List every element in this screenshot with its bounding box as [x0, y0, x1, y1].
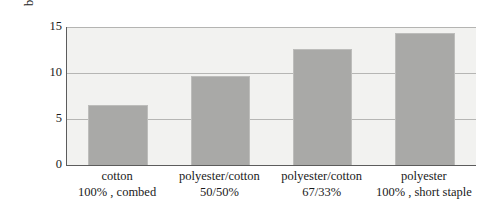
x-axis-category-labels: cotton100% , combedpolyester/cotton50/50…: [66, 168, 476, 214]
x-axis-label-line: 50/50%: [168, 184, 270, 200]
x-axis-label: cotton100% , combed: [66, 168, 168, 200]
x-axis-line: [66, 165, 476, 166]
y-tick-label-15: 15: [36, 20, 62, 33]
y-axis-tick-labels: 151050: [36, 0, 62, 218]
x-axis-label-line: 100% , combed: [66, 184, 168, 200]
bar: [395, 33, 454, 165]
bars-layer: [67, 27, 476, 165]
bar: [88, 105, 147, 165]
x-axis-label-line: polyester/cotton: [168, 168, 270, 184]
x-axis-label-line: polyester: [373, 168, 475, 184]
x-axis-label: polyester/cotton67/33%: [271, 168, 373, 200]
x-axis-label: polyester100% , short staple: [373, 168, 475, 200]
y-tick-label-5: 5: [36, 112, 62, 125]
bar-chart-figure: breaking strain/% 151050 cotton100% , co…: [0, 0, 495, 218]
plot-area: [66, 27, 476, 165]
x-axis-label-line: 67/33%: [271, 184, 373, 200]
x-axis-label-line: cotton: [66, 168, 168, 184]
bar: [293, 49, 352, 165]
y-tick-label-0: 0: [36, 158, 62, 171]
y-tick-label-10: 10: [36, 66, 62, 79]
x-axis-label-line: polyester/cotton: [271, 168, 373, 184]
bar: [191, 76, 250, 165]
x-axis-label: polyester/cotton50/50%: [168, 168, 270, 200]
x-axis-label-line: 100% , short staple: [373, 184, 475, 200]
